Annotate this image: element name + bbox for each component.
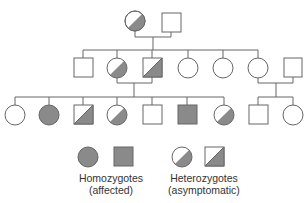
individual-II-4 xyxy=(178,58,198,78)
individual-III-4 xyxy=(107,105,127,125)
legend-heterozygotes-subtitle: (asymptomatic) xyxy=(158,184,250,196)
legend-homozygote-female-icon xyxy=(78,147,98,167)
individual-III-1 xyxy=(5,105,25,125)
individual-II-1 xyxy=(74,58,93,77)
individual-II-7 xyxy=(284,58,302,77)
individual-III-5 xyxy=(143,105,162,124)
individual-III-8 xyxy=(249,105,268,124)
individual-III-9 xyxy=(283,105,303,125)
individual-II-3 xyxy=(143,58,162,77)
individual-III-2 xyxy=(39,105,59,125)
pedigree-diagram xyxy=(0,0,307,203)
individual-III-7 xyxy=(214,105,234,125)
legend-homozygotes-subtitle: (affected) xyxy=(70,184,152,196)
individual-III-3 xyxy=(74,105,93,124)
individual-II-5 xyxy=(213,58,233,78)
individual-II-2 xyxy=(107,58,127,78)
legend-heterozygote-female-icon xyxy=(172,147,192,167)
individual-II-6 xyxy=(248,58,268,78)
legend-heterozygote-male-icon xyxy=(205,147,224,166)
individual-I-1 xyxy=(125,11,145,31)
legend-homozygotes-title: Homozygotes xyxy=(70,172,152,184)
legend-homozygotes-label: Homozygotes (affected) xyxy=(70,172,152,196)
legend-homozygote-male-icon xyxy=(114,147,133,166)
legend-heterozygotes-label: Heterozygotes (asymptomatic) xyxy=(158,172,250,196)
legend-heterozygotes-title: Heterozygotes xyxy=(158,172,250,184)
individual-III-6 xyxy=(178,105,197,124)
individual-I-2 xyxy=(162,13,181,32)
